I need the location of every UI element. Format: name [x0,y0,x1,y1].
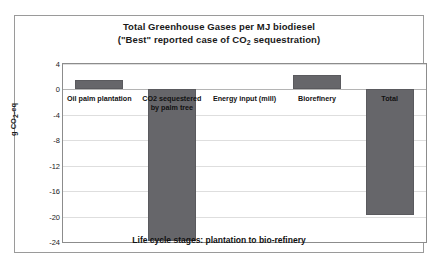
gridline--20 [63,217,426,218]
plot-area: Oil palm plantationCO2 sequesteredby pal… [62,63,427,243]
bar [293,75,341,89]
gridline-4 [63,64,426,65]
y-tick-label: -8 [34,136,60,145]
y-tick-label: 4 [34,60,60,69]
y-tick-label: -16 [34,187,60,196]
chart-screenshot: Total Greenhouse Gases per MJ biodiesel … [0,0,439,269]
category-label: Energy input (mill) [208,94,281,103]
y-axis-title-prefix: g CO [9,118,18,136]
chart-title: Total Greenhouse Gases per MJ biodiesel … [15,20,423,49]
category-label: Biorefinery [281,94,354,103]
chart-subtitle: ("Best" reported case of CO2 sequestrati… [15,33,423,49]
y-axis-title-subscript: 2 [12,114,19,118]
category-label: Oil palm plantation [63,94,136,103]
y-tick-label: -4 [34,110,60,119]
y-axis-tick-labels: 40-4-8-12-16-20-24 [27,63,60,243]
x-axis-title: Life cycle stages: plantation to bio-ref… [15,235,423,245]
y-axis-title-suffix: -eq [9,103,18,114]
bar [366,89,414,214]
y-tick-label: -20 [34,212,60,221]
category-label: CO2 sequesteredby palm tree [136,94,209,112]
bar [75,80,123,90]
chart-subtitle-prefix: ("Best" reported case of CO [118,34,247,45]
chart-frame: Total Greenhouse Gases per MJ biodiesel … [14,15,424,253]
chart-subtitle-suffix: sequestration) [251,34,321,45]
y-tick-label: 0 [34,85,60,94]
y-axis-title: g CO2-eq [9,103,19,136]
y-tick-label: -12 [34,161,60,170]
category-label: Total [353,94,426,103]
chart-title-line1: Total Greenhouse Gases per MJ biodiesel [123,21,315,32]
